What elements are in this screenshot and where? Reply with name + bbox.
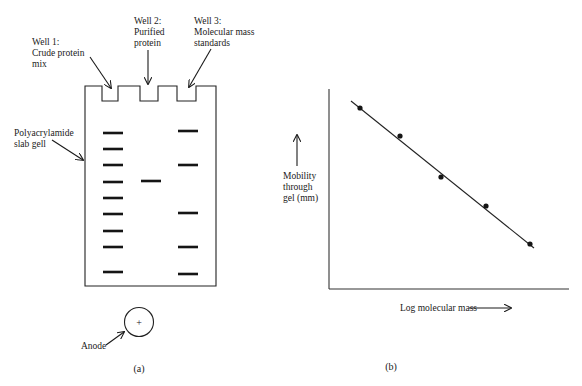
gel-band [103, 197, 123, 200]
figure-canvas: Well 1: Crude protein mix Well 2: Purifi… [0, 0, 582, 386]
x-axis-label: Log molecular mass [400, 303, 477, 313]
gel-band [103, 213, 123, 216]
gel-band [178, 246, 198, 249]
well-1-label: Well 1: Crude protein mix [32, 37, 87, 69]
panel-b-plot: Mobility through gel (mm) Log molecular … [283, 89, 569, 373]
data-point [397, 133, 402, 138]
best-fit-line [351, 101, 534, 248]
y-axis-label: Mobility through gel (mm) [283, 171, 319, 204]
data-point [483, 203, 488, 208]
anode-label: Anode [81, 341, 106, 351]
gel-band [103, 246, 123, 249]
well-2-label: Well 2: Purified protein [134, 16, 167, 48]
gel-band [103, 148, 123, 151]
anode-arrow [106, 332, 124, 345]
gel-band [103, 230, 123, 233]
gel-label-arrow [52, 140, 83, 160]
lane-2-bands [141, 180, 161, 183]
lane-3-bands [178, 130, 198, 276]
gel-band [178, 130, 198, 133]
gel-band [103, 164, 123, 167]
gel-band [141, 180, 161, 183]
panel-a-gel-diagram: Well 1: Crude protein mix Well 2: Purifi… [14, 16, 257, 375]
gel-label: Polyacrylamide slab gell [14, 128, 76, 149]
lane-1-bands [103, 132, 123, 274]
panel-b-caption: (b) [385, 361, 397, 373]
gel-band [178, 164, 198, 167]
well-1-arrow [90, 57, 111, 88]
gel-band [103, 181, 123, 184]
data-point [527, 241, 532, 246]
gel-band [103, 132, 123, 135]
gel-band [178, 273, 198, 276]
data-point [357, 105, 362, 110]
data-point [438, 174, 443, 179]
gel-band [178, 212, 198, 215]
gel-slab-outline [85, 86, 216, 286]
well-3-label: Well 3: Molecular mass standards [194, 16, 257, 48]
anode-plus-symbol: + [136, 317, 142, 328]
gel-band [103, 271, 123, 274]
well-3-arrow [189, 49, 211, 87]
panel-a-caption: (a) [133, 363, 144, 375]
